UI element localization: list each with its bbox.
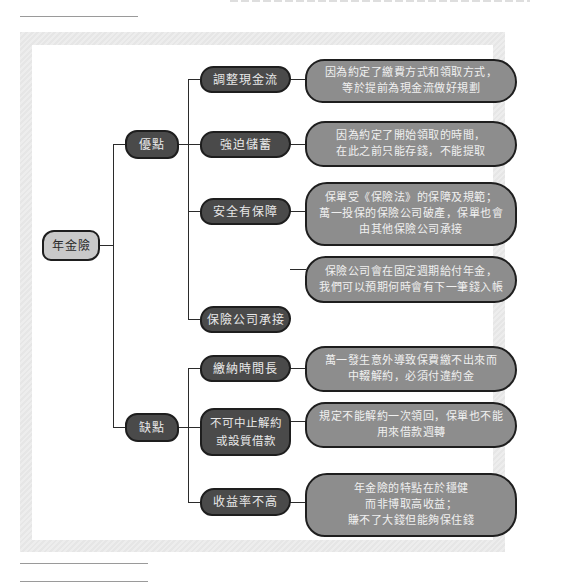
pro-forced-saving: 強迫儲蓄	[200, 131, 291, 158]
connector-pros-3	[188, 211, 200, 212]
pro-safety: 安全有保障	[200, 198, 291, 225]
top-cut-text	[230, 0, 530, 2]
pro-company-takeover: 保險公司承接	[200, 306, 291, 333]
category-pros: 優點	[125, 130, 179, 159]
desc-low-yield: 年金險的特點在於穩健 而非博取高收益； 賺不了大錢但能夠保住錢	[305, 473, 517, 537]
connector-desc-4	[290, 269, 306, 270]
connector-pros-spine	[188, 79, 189, 319]
category-cons: 缺點	[125, 413, 179, 442]
desc-no-cancellation: 規定不能解約一次領回，保單也不能 用來借款週轉	[305, 402, 517, 448]
connector-cons-spine	[188, 368, 189, 502]
top-rule	[20, 16, 138, 17]
connector-root	[100, 245, 113, 246]
connector-main-spine	[113, 144, 114, 427]
bottom-rule-1	[20, 563, 148, 564]
desc-company-takeover: 保險公司會在固定週期給付年金， 我們可以預期何時會有下一筆錢入帳	[305, 256, 517, 303]
connector-pros-2	[188, 144, 200, 145]
connector-desc-3	[290, 211, 306, 212]
connector-desc-1	[290, 79, 306, 80]
desc-cashflow: 因為約定了繳費方式和領取方式， 等於提前為現金流做好規劃	[305, 59, 517, 103]
con-low-yield: 收益率不高	[200, 488, 291, 516]
connector-desc-5	[290, 368, 306, 369]
connector-desc-7	[290, 502, 306, 503]
desc-forced-saving: 因為約定了開始領取的時間， 在此之前只能存錢，不能提取	[305, 121, 517, 167]
connector-pros	[113, 144, 125, 145]
connector-cons-3	[188, 502, 200, 503]
con-long-payment: 繳納時間長	[200, 355, 291, 382]
connector-cons-1	[188, 368, 200, 369]
bottom-rule-2	[20, 581, 148, 582]
connector-desc-6	[290, 421, 306, 422]
connector-desc-2	[290, 144, 306, 145]
mindmap-frame: 年金險 優點 缺點 調整現金流 強迫儲蓄 安全有保障 保險公司承接 繳納時間長 …	[20, 32, 505, 552]
root-node: 年金險	[42, 230, 100, 261]
connector-cons	[113, 427, 125, 428]
connector-pros-1	[188, 79, 200, 80]
desc-safety: 保單受《保險法》的保障及規範； 萬一投保的保險公司破產，保單也會 由其他保險公司…	[305, 182, 517, 246]
mindmap-canvas: 年金險 優點 缺點 調整現金流 強迫儲蓄 安全有保障 保險公司承接 繳納時間長 …	[32, 45, 493, 540]
desc-long-payment: 萬一發生意外導致保費繳不出來而 中輟解約，必須付違約金	[305, 346, 517, 392]
connector-pros-4	[188, 319, 200, 320]
connector-pros-out	[178, 144, 188, 145]
connector-cons-out	[178, 427, 188, 428]
connector-cons-2	[188, 427, 200, 428]
pro-cashflow: 調整現金流	[200, 66, 291, 93]
con-no-cancellation: 不可中止解約 或設質借款	[200, 408, 291, 456]
